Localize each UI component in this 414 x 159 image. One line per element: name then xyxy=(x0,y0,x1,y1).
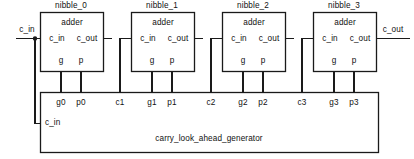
nibble-3-port-p: p xyxy=(352,57,357,65)
clag-port-c-in: c_in xyxy=(45,119,60,127)
nibble-0-port-p: p xyxy=(79,57,84,65)
block-diagram: c_in c_out nibble_0 adder c_in c_out g p… xyxy=(0,0,414,159)
wire-c2-to-n2-c-in xyxy=(211,39,223,93)
clag-port-p3: p3 xyxy=(349,99,358,107)
nibble-0-title: nibble_0 xyxy=(55,2,87,10)
clag-port-p2: p2 xyxy=(258,99,267,107)
clag-port-g3: g3 xyxy=(329,99,338,107)
clag-port-p1: p1 xyxy=(167,99,176,107)
nibble-0-port-c-in: c_in xyxy=(49,35,64,43)
wire-c3-to-n3-c-in xyxy=(302,39,314,93)
nibble-3-title: nibble_3 xyxy=(328,2,360,10)
clag-title: carry_look_ahead_generator xyxy=(155,135,262,143)
clag-port-c1: c1 xyxy=(116,99,125,107)
nibble-2-body-label: adder xyxy=(243,19,264,27)
nibble-3-body-label: adder xyxy=(334,19,355,27)
nibble-3-port-g: g xyxy=(332,57,337,65)
wire-c1-to-n1-c-in xyxy=(120,39,132,93)
nibble-1-port-p: p xyxy=(170,57,175,65)
nibble-3-port-c-out: c_out xyxy=(350,35,371,43)
clag-port-c2: c2 xyxy=(207,99,216,107)
nibble-1-title: nibble_1 xyxy=(146,2,178,10)
clag-port-g0: g0 xyxy=(56,99,65,107)
clag-port-g2: g2 xyxy=(238,99,247,107)
nibble-3-port-c-in: c_in xyxy=(322,35,337,43)
nibble-2-title: nibble_2 xyxy=(237,2,269,10)
clag-port-p0: p0 xyxy=(76,99,85,107)
wire-c-in-to-clag xyxy=(35,39,40,124)
external-c-in-label: c_in xyxy=(19,26,34,34)
clag-port-g1: g1 xyxy=(147,99,156,107)
nibble-1-port-c-in: c_in xyxy=(140,35,155,43)
nibble-0-port-g: g xyxy=(59,57,64,65)
external-c-out-label: c_out xyxy=(383,26,404,34)
nibble-0-body-label: adder xyxy=(61,19,82,27)
nibble-2-port-c-in: c_in xyxy=(231,35,246,43)
nibble-0-port-c-out: c_out xyxy=(77,35,98,43)
nibble-2-port-c-out: c_out xyxy=(259,35,280,43)
clag-port-c3: c3 xyxy=(298,99,307,107)
nibble-1-port-g: g xyxy=(150,57,155,65)
nibble-1-port-c-out: c_out xyxy=(168,35,189,43)
nibble-2-port-p: p xyxy=(261,57,266,65)
nibble-1-body-label: adder xyxy=(152,19,173,27)
nibble-2-port-g: g xyxy=(241,57,246,65)
